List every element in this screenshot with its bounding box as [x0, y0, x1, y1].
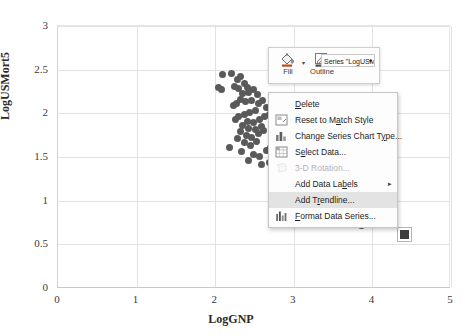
data-point[interactable]: [253, 138, 260, 145]
menu-item-label: Reset to Match Style: [295, 115, 373, 125]
data-point[interactable]: [228, 70, 235, 77]
y-tick-label: 0.5: [0, 238, 48, 249]
data-point[interactable]: [230, 102, 237, 109]
reset-style-icon: [275, 114, 288, 126]
gridline-vertical: [137, 26, 138, 287]
fill-button[interactable]: Fill ▾: [271, 50, 305, 81]
paint-bucket-icon: [279, 52, 297, 67]
x-axis-line: [57, 287, 450, 288]
y-tick-label: 3: [0, 20, 48, 31]
data-point[interactable]: [232, 116, 239, 123]
menu-item-label: Select Data...: [295, 147, 346, 157]
y-tick-label: 1.5: [0, 151, 48, 162]
menu-item-label: Change Series Chart Type...: [295, 131, 402, 141]
series-selector-caret-icon[interactable]: ▾: [369, 55, 372, 67]
series-selector-value: Series "LogUSM: [324, 58, 375, 65]
menu-item-label: Delete: [295, 99, 320, 109]
chart-screen: 00.511.522.53 012345 LogUSMort5 LogGNP F…: [0, 0, 462, 336]
format-series-icon: [275, 210, 288, 222]
y-axis-title: LogUSMort5: [0, 52, 13, 120]
x-tick-label: 4: [351, 294, 391, 305]
gridline-vertical: [451, 26, 452, 287]
menu-item[interactable]: Reset to Match Style: [269, 112, 397, 128]
y-tick-label: 0: [0, 282, 48, 293]
gridline-vertical: [215, 26, 216, 287]
menu-item-label: Add Trendline...: [295, 195, 355, 205]
x-tick-label: 3: [273, 294, 313, 305]
gridline-horizontal: [58, 70, 449, 71]
series-selector[interactable]: Series "LogUSM ▾: [321, 54, 375, 67]
menu-item[interactable]: Delete: [269, 96, 397, 112]
x-tick-label: 2: [194, 294, 234, 305]
menu-item[interactable]: Add Trendline...: [269, 192, 397, 208]
data-point[interactable]: [218, 86, 225, 93]
data-point[interactable]: [237, 73, 244, 80]
gridline-horizontal: [58, 26, 449, 27]
x-tick-label: 1: [116, 294, 156, 305]
menu-item[interactable]: Format Data Series...: [269, 208, 397, 224]
gridline-horizontal: [58, 244, 449, 245]
menu-item[interactable]: Change Series Chart Type...: [269, 128, 397, 144]
menu-item: 3-D Rotation...: [269, 160, 397, 176]
menu-item[interactable]: Select Data...: [269, 144, 397, 160]
menu-item-label: 3-D Rotation...: [295, 163, 350, 173]
select-data-icon: [275, 146, 288, 158]
y-tick-label: 1: [0, 195, 48, 206]
selected-data-point[interactable]: [400, 230, 409, 239]
x-tick-label: 5: [430, 294, 462, 305]
outline-label: Outline: [305, 67, 339, 76]
data-point[interactable]: [245, 125, 252, 132]
submenu-arrow-icon: ▸: [388, 176, 392, 192]
rotation-3d-icon: [275, 162, 288, 174]
menu-item-label: Add Data Labels: [295, 179, 358, 189]
fill-label: Fill: [271, 67, 305, 76]
data-point[interactable]: [219, 71, 226, 78]
chart-type-icon: [275, 130, 288, 142]
x-axis-title: LogGNP: [0, 312, 462, 327]
context-menu[interactable]: DeleteReset to Match StyleChange Series …: [268, 92, 398, 228]
menu-item-label: Format Data Series...: [295, 211, 376, 221]
x-tick-label: 0: [37, 294, 77, 305]
menu-item[interactable]: Add Data Labels▸: [269, 176, 397, 192]
mini-toolbar[interactable]: Fill ▾ Outline ▾ Series "LogUSM ▾: [268, 47, 380, 84]
